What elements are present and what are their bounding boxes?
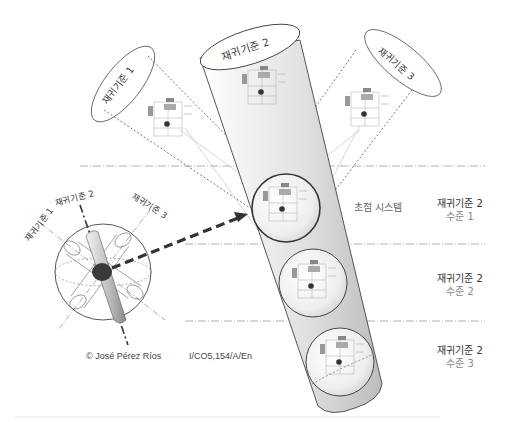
- focus-arrow: [112, 212, 248, 268]
- level-3-sub: 수준 3: [425, 357, 495, 370]
- recursion-sphere: [40, 205, 165, 345]
- level-3-label: 재귀기준 2 수준 3: [425, 344, 495, 370]
- level-1-circle: [252, 174, 320, 242]
- level-1-label: 재귀기준 2 수준 1: [425, 197, 495, 223]
- level-3-title: 재귀기준 2: [425, 344, 495, 357]
- level-2-sub: 수준 2: [425, 285, 495, 298]
- focus-system-label: 초점 시스템: [354, 203, 402, 213]
- level-3-circle: [306, 328, 374, 396]
- level-2-label: 재귀기준 2 수준 2: [425, 272, 495, 298]
- level-2-title: 재귀기준 2: [425, 272, 495, 285]
- level-2-circle: [279, 249, 347, 317]
- criterion-1-system-icon: [148, 98, 192, 136]
- level-1-title: 재귀기준 2: [425, 197, 495, 210]
- level-1-sub: 수준 1: [425, 210, 495, 223]
- recursion-criteria-diagram: 재귀기준 1 재귀기준 2 재귀기준 3 재귀기준 1 재귀기준 2 재귀기준 …: [0, 0, 507, 422]
- author-credit: © José Pérez Ríos: [86, 351, 161, 361]
- figure-code: I/CO5,154/A/En: [189, 351, 252, 361]
- criterion-3-system-icon: [345, 88, 389, 126]
